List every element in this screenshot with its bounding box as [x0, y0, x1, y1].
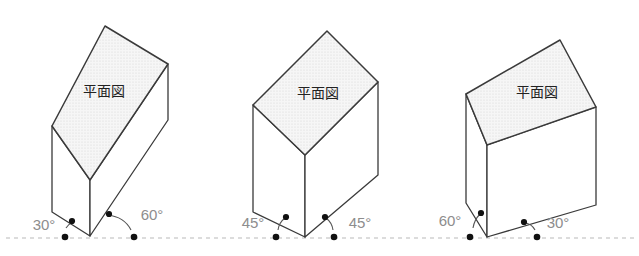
prism-center-plan-label: 平面図 — [297, 85, 339, 101]
edge-dot-2a — [283, 214, 289, 220]
prism-diagram: 平面図 30° 60° 平面図 45° 45° 平面図 60° 30° — [0, 0, 639, 256]
angle-label-60-right: 60° — [141, 206, 164, 223]
edge-dot-3b — [521, 219, 527, 225]
baseline-dot-1b — [131, 234, 138, 241]
angle-label-45-left: 45° — [242, 214, 265, 231]
angle-label-30-right: 30° — [547, 214, 570, 231]
edge-dot-3a — [478, 210, 484, 216]
angle-label-30-left: 30° — [33, 216, 56, 233]
angle-label-60-left: 60° — [439, 212, 462, 229]
baseline-dot-2b — [331, 234, 338, 241]
edge-dot-1b — [106, 211, 112, 217]
prism-right-plan-label: 平面図 — [516, 84, 558, 100]
edge-dot-1a — [69, 218, 75, 224]
baseline-dot-3a — [467, 234, 474, 241]
baseline-dot-3b — [534, 234, 541, 241]
prism-left-plan-label: 平面図 — [83, 83, 125, 99]
baseline-dot-1a — [62, 234, 69, 241]
angle-label-45-right: 45° — [349, 214, 372, 231]
baseline-dot-2a — [273, 234, 280, 241]
edge-dot-2b — [322, 214, 328, 220]
figure-canvas: 平面図 30° 60° 平面図 45° 45° 平面図 60° 30° — [0, 0, 639, 256]
